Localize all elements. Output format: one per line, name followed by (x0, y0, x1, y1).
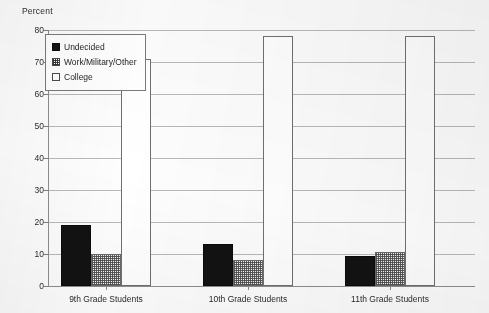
bar-college (263, 36, 293, 286)
x-axis-group-label: 10th Grade Students (209, 294, 287, 304)
white-square-icon (52, 73, 60, 81)
legend-item-label: Undecided (64, 42, 105, 52)
x-axis-group-label: 9th Grade Students (69, 294, 143, 304)
y-axis-tick-label: 70 (18, 57, 44, 67)
bar-chart: Percent 01020304050607080 9th Grade Stud… (0, 0, 489, 313)
checkered-square-icon (52, 58, 60, 66)
y-axis-tick-label: 0 (18, 281, 44, 291)
bar-undecided (345, 256, 375, 286)
y-axis-tick-label: 40 (18, 153, 44, 163)
y-axis-tick-label: 80 (18, 25, 44, 35)
y-axis-tick-label: 30 (18, 185, 44, 195)
solid-black-square-icon (52, 43, 60, 51)
legend-item-label: College (64, 72, 93, 82)
bar-work-military-other (91, 254, 121, 286)
y-axis-tick-label: 10 (18, 249, 44, 259)
bar-undecided (61, 225, 91, 286)
bar-work-military-other (375, 252, 405, 286)
bar-work-military-other (233, 260, 263, 286)
y-axis-tick-label: 50 (18, 121, 44, 131)
x-axis-tick-mark (390, 286, 391, 290)
legend-item-work-military-other: Work/Military/Other (52, 55, 137, 69)
x-axis-tick-mark (248, 286, 249, 290)
chart-legend: Undecided Work/Military/Other College (45, 34, 146, 91)
x-axis-line (48, 286, 475, 287)
x-axis-group-label: 11th Grade Students (351, 294, 429, 304)
legend-item-college: College (52, 70, 137, 84)
y-axis-tick-labels: 01020304050607080 (16, 0, 44, 313)
legend-item-undecided: Undecided (52, 40, 137, 54)
bar-college (405, 36, 435, 286)
x-axis-tick-mark (106, 286, 107, 290)
y-axis-tick-label: 20 (18, 217, 44, 227)
y-axis-tick-label: 60 (18, 89, 44, 99)
bar-undecided (203, 244, 233, 286)
bar-college (121, 59, 151, 286)
legend-item-label: Work/Military/Other (64, 57, 137, 67)
